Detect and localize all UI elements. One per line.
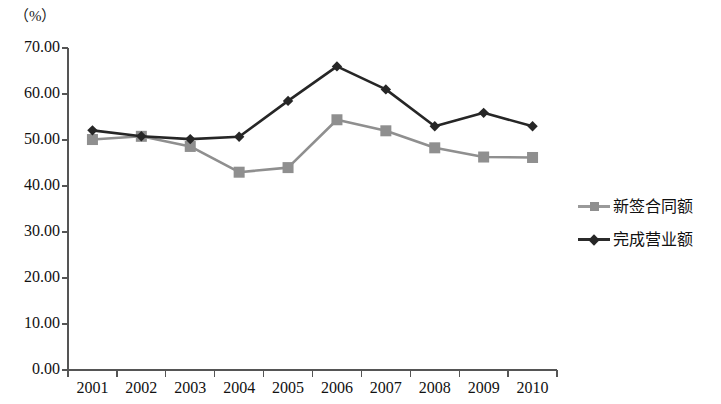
axes-group [62, 48, 557, 377]
legend-label-series-b: 完成营业额 [613, 232, 693, 248]
data-point-marker-square [429, 142, 440, 153]
y-axis-tick-label: 40.00 [2, 176, 60, 194]
legend-label-series-a: 新签合同额 [613, 199, 693, 215]
data-point-marker-square [527, 152, 538, 163]
series-line [92, 66, 532, 139]
data-point-marker-square [380, 125, 391, 136]
data-point-marker-square [283, 162, 294, 173]
y-axis-tick-label: 60.00 [2, 84, 60, 102]
y-axis-tick-label: 20.00 [2, 268, 60, 286]
chart-legend: 新签合同额 完成营业额 [578, 190, 721, 256]
series-line [92, 120, 532, 172]
data-point-marker-diamond [87, 125, 97, 135]
legend-key-diamond-icon [578, 233, 610, 247]
x-axis-tick-label: 2001 [68, 379, 117, 397]
legend-item-series-a[interactable]: 新签合同额 [578, 190, 721, 223]
x-axis-tick-label: 2005 [264, 379, 313, 397]
data-point-marker-square [331, 114, 342, 125]
y-axis-tick-label: 70.00 [2, 38, 60, 56]
x-axis-tick-label: 2002 [117, 379, 166, 397]
data-point-marker-square [478, 152, 489, 163]
x-axis-tick-label: 2004 [215, 379, 264, 397]
x-axis-tick-label: 2010 [508, 379, 557, 397]
series-b [87, 61, 538, 144]
x-axis-tick-label: 2006 [313, 379, 362, 397]
x-axis-tick-label: 2003 [166, 379, 215, 397]
x-axis-tick-label: 2008 [410, 379, 459, 397]
chart-container: （%） 70.0060.0050.0040.0030.0020.0010.000… [0, 0, 721, 404]
y-axis-tick-label: 10.00 [2, 314, 60, 332]
legend-item-series-b[interactable]: 完成营业额 [578, 223, 721, 256]
data-point-marker-square [87, 134, 98, 145]
data-point-marker-diamond [478, 108, 488, 118]
y-axis-tick-label: 0.00 [2, 360, 60, 378]
data-point-marker-square [234, 167, 245, 178]
y-axis-tick-label: 30.00 [2, 222, 60, 240]
legend-key-square-icon [578, 200, 610, 214]
x-axis-tick-label: 2007 [361, 379, 410, 397]
series-group [87, 61, 538, 178]
data-point-marker-diamond [527, 121, 537, 131]
series-a [87, 114, 538, 177]
x-axis-tick-label: 2009 [459, 379, 508, 397]
y-axis-tick-label: 50.00 [2, 130, 60, 148]
